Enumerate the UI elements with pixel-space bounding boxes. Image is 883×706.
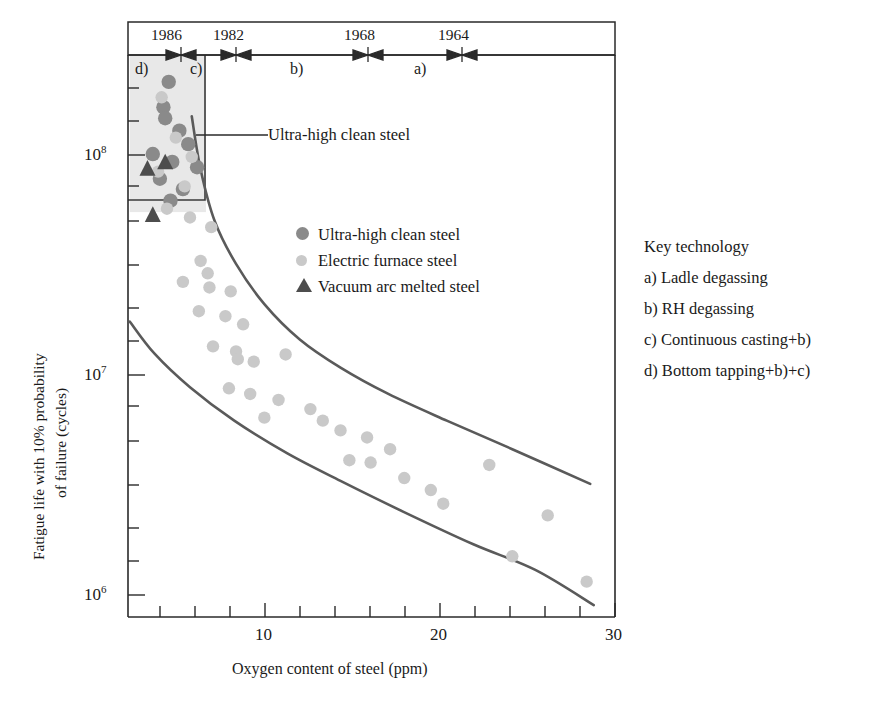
x-tick-label-10: 10 [255,625,272,645]
y-axis-title-line2: of failure (cycles) [52,388,70,498]
marker-circle [225,285,237,297]
marker-circle [317,414,329,426]
marker-circle [343,454,355,466]
marker-circle [178,180,190,192]
y-tick-label-1e8: 108 [84,143,107,165]
key-technology-item-d: d) Bottom tapping+b)+c) [644,361,811,381]
key-technology-block: Key technology a) Ladle degassing b) RH … [644,237,811,381]
year-label-1968: 1968 [344,26,375,44]
y-axis-title-line1: Fatigue life with 10% probability [30,353,48,560]
y-tick-exp-7: 7 [101,363,107,375]
lower-bound-curve [130,322,594,606]
marker-circle [177,276,189,288]
legend-circle-light-icon [296,252,318,270]
year-label-1986: 1986 [151,26,182,44]
key-technology-item-a: a) Ladle degassing [644,268,811,288]
marker-circle [304,403,316,415]
year-label-1982: 1982 [213,26,244,44]
marker-circle [170,131,182,143]
marker-circle [162,75,176,89]
marker-circle [258,411,270,423]
marker-circle [186,151,198,163]
marker-circle [272,394,284,406]
y-tick-base-6: 10 [84,585,101,604]
x-axis-ticks [160,603,615,617]
phase-label-b: b) [290,60,303,78]
marker-circle [364,456,376,468]
legend-item-electric-furnace-steel: Electric furnace steel [296,248,480,274]
x-tick-label-20: 20 [430,625,447,645]
y-tick-base-7: 10 [84,365,101,384]
legend-triangle-dark-icon [296,278,318,296]
marker-circle [146,147,160,161]
key-technology-item-c: c) Continuous casting+b) [644,330,811,350]
marker-circle [279,348,291,360]
marker-circle [158,111,172,125]
legend-item-vacuum-arc-melted-steel: Vacuum arc melted steel [296,274,480,300]
year-label-1964: 1964 [438,26,469,44]
x-axis-title: Oxygen content of steel (ppm) [232,660,428,678]
marker-circle [237,318,249,330]
ultra-high-clean-steel-annotation: Ultra-high clean steel [268,125,410,145]
marker-circle [219,310,231,322]
marker-circle [398,472,410,484]
y-tick-label-1e7: 107 [84,363,107,385]
marker-circle [506,550,518,562]
upper-bound-curve [192,116,590,484]
x-tick-label-30: 30 [605,625,622,645]
marker-circle [201,267,213,279]
legend-label-ultra-high-clean-steel: Ultra-high clean steel [318,225,460,245]
y-tick-exp-8: 8 [101,143,107,155]
marker-circle [483,459,495,471]
marker-circle [542,509,554,521]
marker-circle [184,211,196,223]
marker-circle [223,382,235,394]
marker-circle [244,388,256,400]
marker-circle [155,91,167,103]
key-technology-heading: Key technology [644,237,811,257]
marker-circle [193,305,205,317]
legend-label-vacuum-arc-melted-steel: Vacuum arc melted steel [318,277,480,297]
marker-circle [181,137,195,151]
chart-legend: Ultra-high clean steel Electric furnace … [296,222,480,300]
legend-item-ultra-high-clean-steel: Ultra-high clean steel [296,222,480,248]
series-electric-furnace-steel [152,91,593,588]
marker-circle [425,484,437,496]
phase-label-d: d) [135,60,148,78]
marker-circle [334,424,346,436]
y-tick-base-8: 10 [84,145,101,164]
phase-label-a: a) [414,60,426,78]
figure-root: 1986 1982 1968 1964 d) c) b) a) 108 107 … [0,0,883,706]
marker-circle [194,255,206,267]
legend-circle-dark-icon [296,226,318,244]
marker-circle [248,355,260,367]
marker-circle [205,221,217,233]
marker-circle [232,353,244,365]
key-technology-item-b: b) RH degassing [644,299,811,319]
legend-label-electric-furnace-steel: Electric furnace steel [318,251,457,271]
marker-circle [207,340,219,352]
marker-circle [161,203,173,215]
y-tick-label-1e6: 106 [84,583,107,605]
y-tick-exp-6: 6 [101,583,107,595]
marker-circle [580,575,592,587]
marker-circle [384,443,396,455]
data-markers [139,75,592,588]
marker-circle [437,498,449,510]
marker-circle [203,281,215,293]
marker-circle [361,431,373,443]
phase-label-c: c) [190,60,202,78]
